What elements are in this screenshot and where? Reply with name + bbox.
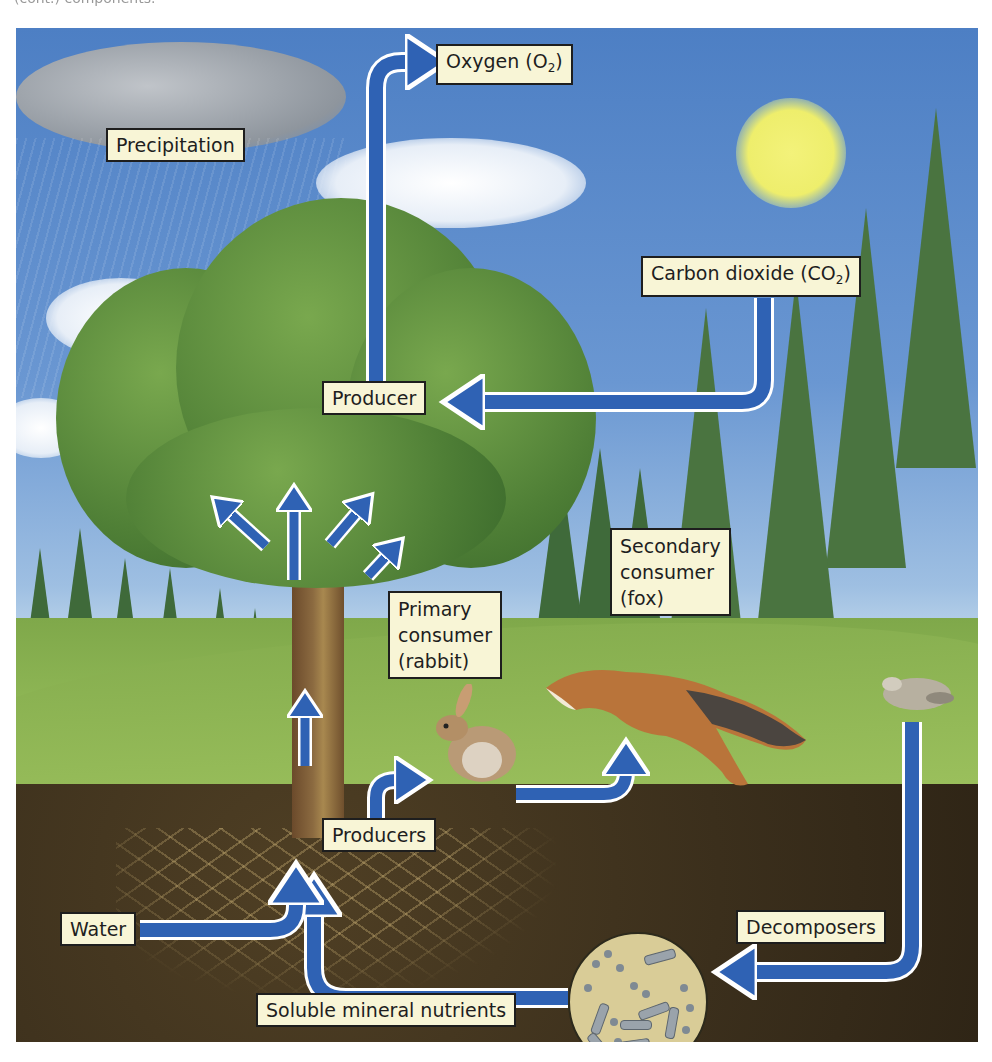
label-primary-consumer: Primary consumer (rabbit) [388,591,502,679]
label-soluble-nutrients-text: Soluble mineral nutrients [266,999,506,1021]
label-precipitation: Precipitation [106,128,245,162]
label-water: Water [60,912,136,946]
label-decomposers-text: Decomposers [746,916,876,938]
label-oxygen-close: ) [555,50,562,72]
label-precipitation-text: Precipitation [116,134,235,156]
label-secondary-consumer: Secondary consumer (fox) [610,528,731,616]
label-producers: Producers [322,818,436,852]
label-producer: Producer [322,381,426,415]
arrow-co2-to-producer [464,298,764,402]
arrow-nutrients-to-producers [314,896,568,998]
label-co2-close: ) [843,262,850,284]
label-producers-text: Producers [332,824,426,846]
label-oxygen-text: Oxygen (O [446,50,548,72]
label-producer-text: Producer [332,387,416,409]
ecosystem-illustration: Precipitation Oxygen (O2) Carbon dioxide… [16,28,978,1042]
label-soluble-mineral-nutrients: Soluble mineral nutrients [256,993,516,1027]
label-carbon-dioxide: Carbon dioxide (CO2) [641,256,861,297]
label-oxygen: Oxygen (O2) [436,44,573,85]
cropped-caption-fragment: (cont.) components. [14,0,155,6]
label-water-text: Water [70,918,126,940]
label-decomposers: Decomposers [736,910,886,944]
flow-arrows [16,28,978,1042]
label-co2-text: Carbon dioxide (CO [651,262,836,284]
arrow-producer-to-oxygen [376,62,426,388]
